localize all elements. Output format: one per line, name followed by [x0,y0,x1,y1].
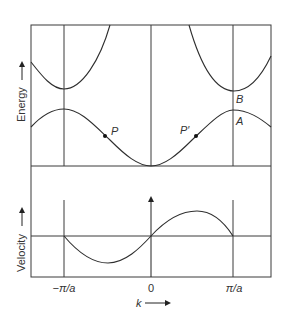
velocity-axis-label: Velocity [15,234,27,272]
x-tick-pi-over-a: π/a [226,282,243,294]
energy-axis-label: Energy [15,87,27,122]
point-A-label: A [235,115,243,127]
point-P-prime-label: P′ [180,124,190,136]
upper-band-curve-left [31,25,110,89]
band-diagram: P P′ A B Energy Velocity −π/a 0 π/a k [0,0,284,316]
point-B-label: B [236,93,243,105]
point-P-marker [103,134,107,138]
point-P-label: P [111,125,119,137]
k-axis-label: k [136,297,142,309]
x-tick-minus-pi-over-a: −π/a [53,282,76,294]
x-tick-zero: 0 [148,282,154,294]
velocity-curve [64,211,233,263]
upper-band-curve-right [189,25,271,91]
point-P-prime-marker [194,134,198,138]
